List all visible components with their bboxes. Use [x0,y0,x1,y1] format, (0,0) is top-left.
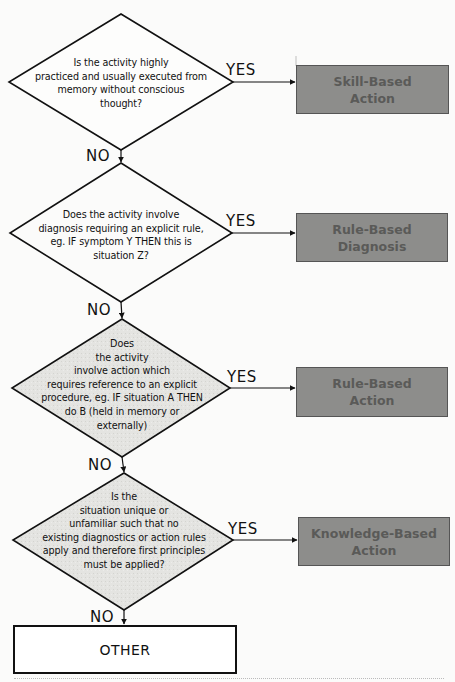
decision-text-3: Does the activity involve action which r… [28,337,216,432]
no-arrow-3 [122,457,124,472]
no-label-2: NO [87,303,111,318]
decision-4-line: apply and therefore first principles [30,544,218,558]
decision-1-line: thought? [28,97,214,111]
no-arrow-2 [121,302,122,318]
decision-text-2: Does the activity involve diagnosis requ… [28,208,214,262]
no-label-1: NO [86,149,110,164]
decision-4-line: must be applied? [30,558,218,572]
decision-3-line: involve action which [28,364,216,378]
decision-4-line: existing diagnostics or action rules [30,531,218,545]
decision-2-line: diagnosis requiring an explicit rule, [28,222,214,236]
yes-label-1: YES [226,63,256,78]
outcome-skill-based-action: Skill-Based Action [296,65,449,114]
decision-3-line: do B (held in memory or [28,405,216,419]
yes-label-4: YES [228,522,258,537]
no-label-4: NO [90,610,114,625]
decision-4-line: situation unique or [30,504,218,518]
decision-2-line: eg. IF symptom Y THEN this is [28,235,214,249]
decision-3-line: procedure, eg. IF situation A THEN [28,391,216,405]
outcome-knowledge-based-action: Knowledge-Based Action [298,517,450,566]
decision-3-line: requires reference to an explicit [28,378,216,392]
terminal-other-box: OTHER [13,625,237,674]
decision-1-line: memory without conscious [28,83,214,97]
terminal-other-label: OTHER [99,642,150,658]
yes-label-3: YES [227,370,257,385]
outcome-rule-based-action: Rule-Based Action [296,367,448,417]
decision-1-line: practiced and usually executed from [28,70,214,84]
decision-1-line: Is the activity highly [28,56,214,70]
decision-3-line: Does [28,337,216,351]
outcome-rule-based-diagnosis: Rule-Based Diagnosis [296,213,448,262]
decision-2-line: situation Z? [28,249,214,263]
decision-text-1: Is the activity highly practiced and usu… [28,56,214,110]
decision-3-line: externally) [28,419,216,433]
yes-label-2: YES [226,214,256,229]
no-label-3: NO [88,458,112,473]
cropped-caption-fragment [14,678,444,682]
decision-4-line: unfamiliar such that no [30,517,218,531]
decision-4-line: Is the [30,490,218,504]
decision-3-line: the activity [28,351,216,365]
decision-2-line: Does the activity involve [28,208,214,222]
decision-text-4: Is the situation unique or unfamiliar su… [30,490,218,572]
